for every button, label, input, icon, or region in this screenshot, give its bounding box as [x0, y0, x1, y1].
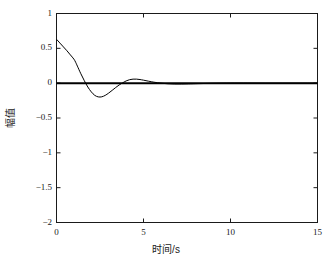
y-tick-label: 0: [8, 77, 52, 87]
y-tick-label: 0.5: [8, 42, 52, 52]
y-tick-label: −1.5: [8, 182, 52, 192]
data-curves: [57, 39, 318, 97]
x-tick-label: 5: [124, 227, 164, 237]
x-tick-label: 15: [298, 227, 332, 237]
x-tick-label: 10: [211, 227, 251, 237]
y-tick-label: −1: [8, 147, 52, 157]
x-axis-title: 时间/s: [0, 241, 332, 256]
plot-frame: [57, 14, 318, 223]
y-tick-label: 1: [8, 8, 52, 18]
y-axis-title: 幅值: [2, 95, 17, 141]
x-tick-label: 0: [37, 227, 77, 237]
series-line-damped-response: [57, 39, 318, 97]
y-tick-label: −2: [8, 217, 52, 227]
chart-figure: −2−1.5−1−0.500.51 051015 时间/s 幅值: [0, 0, 332, 263]
axis-ticks: [57, 14, 318, 223]
